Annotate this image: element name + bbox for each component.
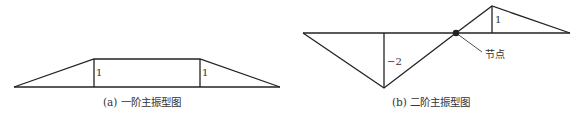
amplitude-label-b-right: 1	[495, 15, 501, 25]
mode-curve-a	[14, 59, 280, 87]
amplitude-label-a-left: 1	[96, 68, 102, 78]
amplitude-label-a-right: 1	[202, 68, 208, 78]
amplitude-label-b-left: −2	[387, 57, 402, 67]
caption-b: (b) 二阶主振型图	[392, 97, 470, 108]
node-point	[453, 30, 458, 35]
second-mode-shape	[303, 6, 570, 88]
mode-curve-b	[303, 6, 570, 88]
mode-shape-diagrams	[0, 0, 578, 120]
node-label: 节点	[485, 50, 505, 60]
first-mode-shape	[14, 59, 280, 87]
node-leader-line	[456, 33, 482, 52]
caption-a: (a) 一阶主振型图	[103, 97, 181, 108]
